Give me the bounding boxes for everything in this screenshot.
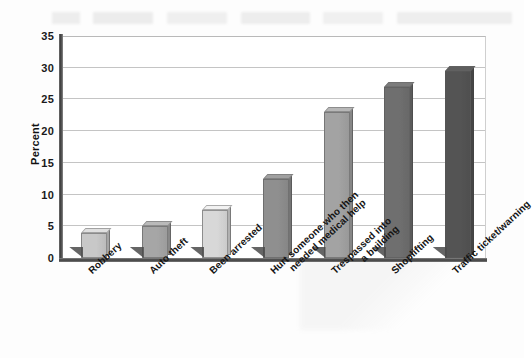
bar-top-face (142, 221, 173, 226)
bar-top-face (324, 107, 355, 112)
bar-top-face (445, 66, 476, 71)
gridline (62, 130, 485, 131)
bar (263, 174, 289, 258)
gridline (62, 98, 485, 99)
y-axis-tick-label: 5 (20, 220, 54, 232)
bar (445, 66, 471, 258)
y-axis-tick-label: 30 (20, 62, 54, 74)
y-axis-tick-label: 10 (20, 189, 54, 201)
y-axis-title: Percent (29, 99, 41, 189)
gridline (62, 162, 485, 163)
plot-area (62, 36, 486, 258)
bar-top-face (81, 228, 112, 233)
x-axis-category-labels: RobberyAuto theftBeen arrestedHurt someo… (62, 264, 486, 338)
bar-front-face (263, 179, 289, 258)
y-axis-line (59, 34, 63, 262)
x-axis-line (59, 258, 487, 262)
y-axis-tick-label: 0 (20, 252, 54, 264)
bar-top-face (384, 82, 415, 87)
bar-top-face (263, 174, 294, 179)
bar-front-face (445, 71, 471, 258)
bar-chart: 35302520151050 Percent RobberyAuto theft… (18, 20, 505, 338)
gridline (62, 67, 485, 68)
y-axis-tick-label: 35 (20, 30, 54, 42)
